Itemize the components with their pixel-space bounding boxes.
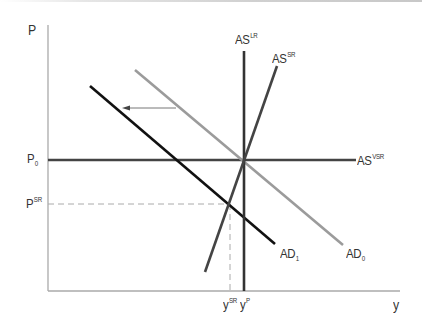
y-axis-label: P (28, 23, 36, 37)
x-axis-label: y (393, 298, 399, 312)
as-sr-curve (205, 66, 277, 272)
as-lr-label: ASLR (235, 33, 258, 46)
yp-label: yP (240, 298, 250, 311)
ad1-label: AD1 (280, 247, 299, 260)
as-sr-label: ASSR (272, 52, 295, 65)
ad0-curve (135, 70, 343, 245)
psr-label: PSR (26, 197, 42, 210)
p0-label: P0 (27, 152, 38, 165)
ad0-label: AD0 (346, 247, 365, 260)
ysr-label: ySR (223, 298, 237, 311)
as-vsr-label: ASVSR (357, 154, 384, 167)
arrow-left-icon (122, 106, 130, 111)
